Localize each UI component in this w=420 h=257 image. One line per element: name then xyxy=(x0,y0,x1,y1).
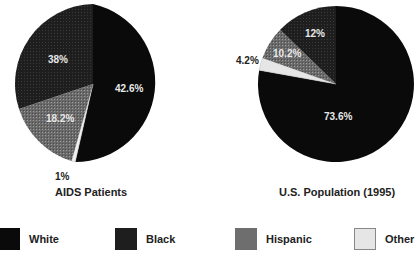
swatch-black xyxy=(115,228,137,250)
swatch-white xyxy=(0,228,20,250)
pie-aids-patients: 42.6% 38% 18.2% 1% AIDS Patients xyxy=(0,0,210,210)
label-white: 73.6% xyxy=(324,111,352,122)
legend-label-black: Black xyxy=(146,233,175,245)
label-other: 1% xyxy=(55,171,69,182)
label-black: 38% xyxy=(48,54,68,65)
legend-item-other: Other xyxy=(354,228,414,250)
label-hispanic: 18.2% xyxy=(46,113,74,124)
label-other: 4.2% xyxy=(236,55,259,66)
pie-us-population: 73.6% 12% 10.2% 4.2% U.S. Population (19… xyxy=(210,0,420,210)
legend-item-hispanic: Hispanic xyxy=(235,228,312,250)
pie-aids-patients-graphic xyxy=(0,0,210,170)
label-white: 42.6% xyxy=(115,83,143,94)
legend-item-black: Black xyxy=(115,228,175,250)
legend-label-hispanic: Hispanic xyxy=(266,233,312,245)
label-hispanic: 10.2% xyxy=(273,48,301,59)
pie-title-us-population: U.S. Population (1995) xyxy=(279,186,395,198)
pie-title-aids-patients: AIDS Patients xyxy=(55,186,127,198)
legend: White Black Hispanic Other xyxy=(0,228,420,250)
legend-item-white: White xyxy=(0,228,59,250)
pie-us-population-graphic xyxy=(210,0,420,170)
swatch-hispanic xyxy=(235,228,257,250)
swatch-other xyxy=(354,228,376,250)
label-black: 12% xyxy=(305,28,325,39)
legend-label-white: White xyxy=(29,233,59,245)
legend-label-other: Other xyxy=(385,233,414,245)
